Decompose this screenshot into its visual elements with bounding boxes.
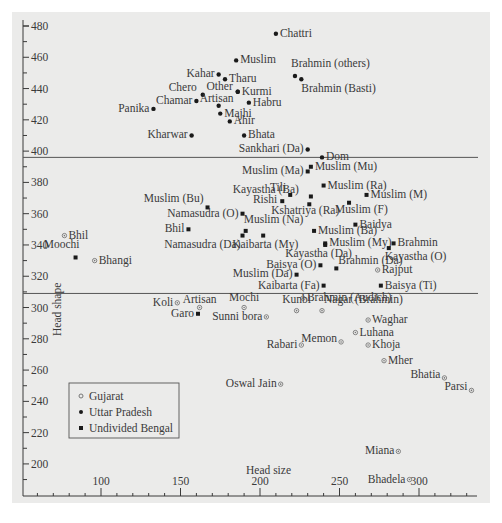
data-point: Oswal Jain [226, 377, 283, 389]
y-tick-label: 280 [31, 333, 49, 345]
asterisk-marker-center [177, 302, 179, 304]
asterisk-marker-center [64, 235, 66, 237]
data-point: Nagar (Brahmin) [320, 293, 403, 313]
square-marker [379, 284, 383, 288]
data-point: Khoja [366, 338, 400, 351]
square-marker [309, 194, 313, 198]
point-label: Luhana [359, 326, 393, 338]
dot-marker [228, 119, 232, 123]
asterisk-marker-center [280, 383, 282, 385]
data-point: Brahmin [392, 236, 438, 248]
point-label: Oswal Jain [226, 377, 277, 389]
asterisk-marker-center [383, 360, 385, 362]
asterisk-marker-center [471, 390, 473, 392]
y-tick-label: 320 [31, 270, 49, 282]
data-point: Kaibarta (Fa) [258, 279, 326, 292]
data-point: Baidya [353, 218, 392, 231]
legend-label: Undivided Bengal [89, 422, 173, 435]
asterisk-marker-center [340, 341, 342, 343]
dot-marker [189, 133, 193, 137]
point-label: Muslim (Bu) [144, 192, 204, 205]
square-marker [392, 241, 396, 245]
y-tick-label: 420 [31, 114, 49, 126]
point-label: Other [207, 80, 233, 92]
x-tick-label: 200 [251, 475, 269, 487]
dot-marker [306, 147, 310, 151]
y-tick-label: 480 [31, 20, 49, 32]
point-label: Bhil [68, 229, 88, 241]
data-point: Bhil [165, 222, 191, 234]
square-marker [74, 255, 78, 259]
point-label: Muslim (F) [335, 203, 388, 216]
asterisk-marker-center [266, 316, 268, 318]
point-label: Namasudra (Da) [164, 238, 240, 251]
point-label: Koli [153, 296, 173, 308]
point-label: Chattri [280, 27, 312, 39]
data-point: Sankhari (Da) [239, 142, 310, 155]
point-label: Habru [253, 96, 282, 108]
x-tick-label: 300 [410, 475, 428, 487]
dot-marker [218, 111, 222, 115]
asterisk-marker-center [301, 344, 303, 346]
asterisk-marker-center [367, 344, 369, 346]
point-label: Brahmin (Basti) [301, 82, 376, 95]
asterisk-marker-center [296, 310, 298, 312]
square-marker [186, 227, 190, 231]
legend: GujaratUttar PradeshUndivided Bengal [69, 383, 179, 438]
data-point: Parsi [444, 380, 473, 392]
data-point: Sunni bora [212, 310, 268, 322]
y-tick-label: 460 [31, 51, 49, 63]
asterisk-marker-center [444, 377, 446, 379]
y-tick-label: 380 [31, 176, 49, 188]
data-point: Bhangi [92, 254, 131, 267]
point-label: Panika [118, 102, 149, 114]
point-label: Bhadela [368, 473, 406, 485]
data-point: Mher [382, 354, 413, 366]
dot-marker [274, 32, 278, 36]
point-label: Garo [171, 307, 194, 319]
point-label: Baisya (Ti) [385, 279, 437, 292]
data-point: Kunbi [282, 293, 311, 313]
point-label: Kharwar [147, 128, 187, 140]
data-point: Habru [247, 96, 282, 108]
square-marker [312, 229, 316, 233]
data-point: Muslim (Mu) [309, 160, 377, 173]
square-marker [309, 165, 313, 169]
data-point: Muslim (Ma) [242, 164, 310, 177]
square-marker [196, 312, 200, 316]
point-label: Bhangi [99, 254, 132, 267]
y-tick-label: 260 [31, 364, 49, 376]
point-label: Sankhari (Da) [239, 142, 304, 155]
dot-marker [216, 104, 220, 108]
legend-dot-marker [79, 410, 83, 414]
data-point: Moochi [44, 238, 80, 259]
dot-marker [151, 107, 155, 111]
point-label: Rabari [267, 338, 298, 350]
legend-label: Gujarat [89, 390, 124, 403]
legend-square-marker [79, 426, 83, 430]
data-point: Garo [171, 307, 200, 319]
y-tick-label: 240 [31, 395, 49, 407]
dot-marker [293, 74, 297, 78]
point-label: Muslim (M) [371, 188, 428, 201]
dot-marker [194, 99, 198, 103]
y-tick-label: 360 [31, 208, 49, 220]
asterisk-marker-center [367, 319, 369, 321]
point-label: Nagar (Brahmin) [324, 293, 403, 306]
data-point: Brahmin (Basti) [299, 77, 376, 95]
point-label: Chero [169, 81, 197, 93]
data-point: Rajput [375, 263, 413, 276]
data-point: Kahar [187, 67, 221, 79]
dot-marker [216, 72, 220, 76]
data-point: Baisya (Ti) [379, 279, 437, 292]
asterisk-marker-center [243, 307, 245, 309]
data-point: Waghar [366, 313, 408, 326]
x-tick-label: 100 [92, 475, 110, 487]
square-marker [295, 273, 299, 277]
point-label: Sunni bora [212, 310, 262, 322]
data-point: Chattri [274, 27, 312, 39]
y-tick-label: 200 [31, 458, 49, 470]
dot-marker [242, 133, 246, 137]
data-point: Artisan [200, 92, 234, 108]
y-tick-label: 300 [31, 302, 49, 314]
